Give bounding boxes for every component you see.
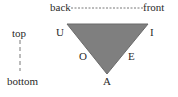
axis-label-bottom: bottom <box>7 75 38 87</box>
vowel-label-e: E <box>128 50 135 62</box>
vowel-label-o: O <box>79 50 87 62</box>
axis-label-front: front <box>143 1 164 13</box>
vowel-triangle <box>67 24 148 74</box>
vowel-label-a: A <box>103 75 111 87</box>
vowel-label-u: U <box>56 26 64 38</box>
axis-label-top: top <box>12 27 26 39</box>
axis-label-back: back <box>50 1 71 13</box>
vowel-label-i: I <box>150 26 154 38</box>
